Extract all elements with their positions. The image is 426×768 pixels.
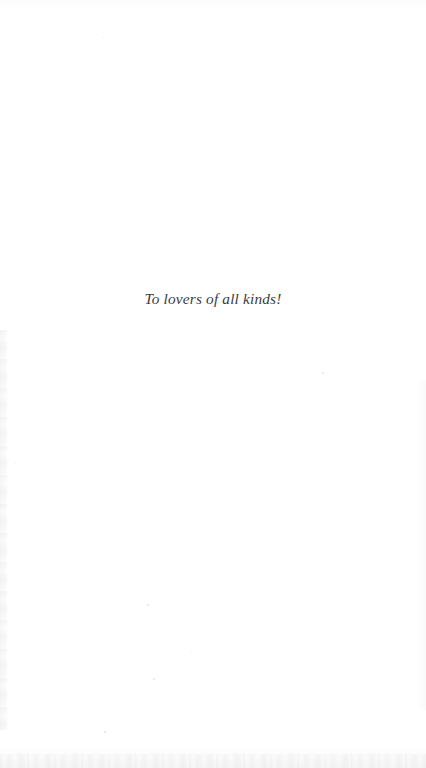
scan-speck xyxy=(191,652,192,653)
scan-speck xyxy=(103,37,104,38)
scan-edge-shadow-top xyxy=(0,0,426,10)
scan-speck xyxy=(322,372,324,374)
scan-artifact-layer xyxy=(0,0,426,768)
scan-speck xyxy=(15,463,16,464)
scan-speck xyxy=(104,731,106,733)
dedication-text: To lovers of all kinds! xyxy=(144,288,281,309)
scan-speck xyxy=(153,678,155,680)
scan-speck xyxy=(147,604,149,606)
scan-edge-shadow-bottom xyxy=(0,746,426,768)
document-page: To lovers of all kinds! xyxy=(0,0,426,768)
dedication-block: To lovers of all kinds! xyxy=(0,288,426,309)
scan-edge-shadow-left xyxy=(0,330,10,730)
scan-edge-shadow-right xyxy=(417,380,426,710)
